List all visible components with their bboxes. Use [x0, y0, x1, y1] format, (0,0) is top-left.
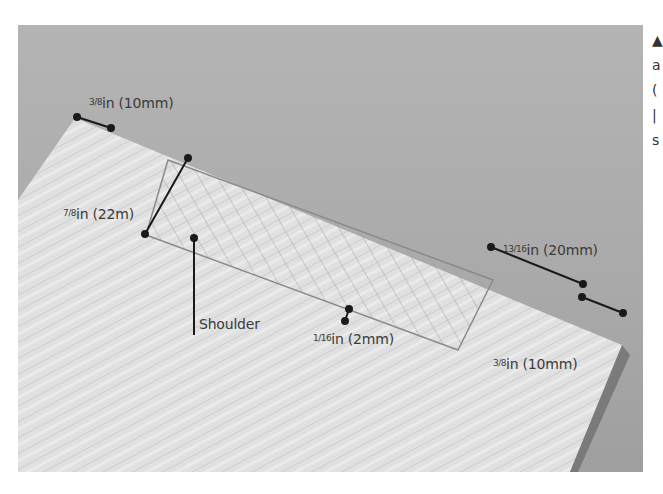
woodworking-photo: 3/8in (10mm) 7/8in (22m) 13/16in (20mm) …: [18, 25, 643, 472]
label-tenon-length: 13/16in (20mm): [503, 243, 598, 257]
label-tenon-width: 7/8in (22m): [63, 207, 134, 221]
cropped-side-text-4: s: [652, 133, 659, 147]
cropped-side-text-0: ▲: [652, 33, 663, 47]
label-shoulder-depth: 1/16in (2mm): [313, 332, 394, 346]
label-top-left-width: 3/8in (10mm): [89, 96, 173, 110]
cropped-side-text-2: (: [652, 83, 657, 97]
cropped-side-text-3: |: [652, 108, 657, 122]
cropped-side-text-1: a: [652, 58, 661, 72]
label-right-width: 3/8in (10mm): [493, 357, 577, 371]
label-shoulder: Shoulder: [199, 317, 260, 331]
